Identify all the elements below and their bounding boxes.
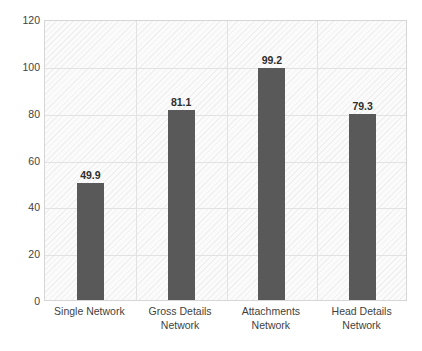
bar — [258, 68, 285, 300]
y-tick-label: 20 — [2, 249, 40, 260]
x-axis: Single NetworkGross Details NetworkAttac… — [44, 304, 407, 350]
plot-area: 49.981.199.279.3 — [44, 20, 407, 301]
y-axis: 020406080100120 — [0, 0, 40, 351]
x-tick-label: Attachments Network — [226, 304, 317, 332]
x-tick-label: Single Network — [44, 304, 135, 318]
bars-layer: 49.981.199.279.3 — [45, 21, 406, 300]
bar-value-label: 81.1 — [136, 97, 227, 108]
bar — [168, 110, 195, 300]
x-tick-label: Gross Details Network — [135, 304, 226, 332]
bar-chart: 020406080100120 49.981.199.279.3 Single … — [0, 0, 422, 351]
bar — [349, 114, 376, 300]
y-tick-label: 60 — [2, 155, 40, 166]
y-tick-label: 40 — [2, 202, 40, 213]
bar-value-label: 79.3 — [317, 101, 407, 112]
bar — [77, 183, 104, 300]
bar-value-label: 49.9 — [45, 170, 136, 181]
y-tick-label: 120 — [2, 15, 40, 26]
y-tick-label: 80 — [2, 108, 40, 119]
bar-value-label: 99.2 — [227, 55, 318, 66]
x-tick-label: Head Details Network — [316, 304, 407, 332]
y-tick-label: 0 — [2, 296, 40, 307]
y-tick-label: 100 — [2, 62, 40, 73]
